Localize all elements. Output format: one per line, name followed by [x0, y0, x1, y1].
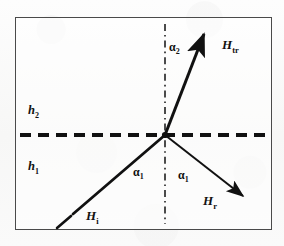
medium-upper-label: h2: [28, 104, 39, 120]
incident-ray-tail: [57, 216, 71, 228]
transmitted-wave-label: Htr: [222, 38, 239, 54]
vertex-point: [162, 132, 168, 138]
angle-incidence-label: α1: [133, 166, 144, 181]
figure-canvas: h2 h1 α2 α1 α1 Htr Hr Hi: [0, 0, 284, 246]
diagram-vectors: [0, 0, 284, 246]
incident-wave-label: Hi: [86, 209, 99, 225]
incident-ray: [73, 135, 165, 214]
angle-reflection-label: α1: [178, 169, 189, 184]
medium-lower-label: h1: [28, 160, 39, 176]
reflected-ray: [165, 135, 243, 196]
angle-transmission-label: α2: [169, 41, 180, 56]
reflected-wave-label: Hr: [203, 194, 217, 210]
